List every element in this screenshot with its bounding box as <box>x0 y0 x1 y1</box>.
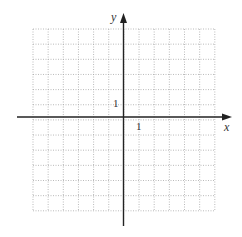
x-tick-label-1: 1 <box>136 120 142 132</box>
y-axis-arrow-icon <box>120 13 127 23</box>
coordinate-plane: y x 1 1 <box>0 0 242 237</box>
y-tick-label-1: 1 <box>113 97 119 109</box>
y-axis-label: y <box>110 10 117 24</box>
x-axis-label: x <box>223 120 230 134</box>
